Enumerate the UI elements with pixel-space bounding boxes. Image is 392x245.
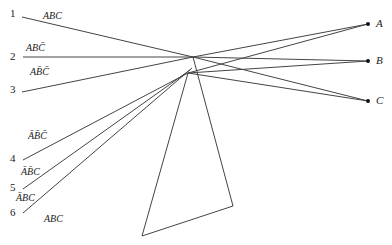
- output-line-lower-a: [188, 24, 368, 73]
- term-label-5: ĀB̄C: [21, 166, 40, 177]
- input-number-1: 1: [10, 7, 16, 19]
- input-line-5: [23, 70, 190, 189]
- input-line-6: [23, 68, 192, 213]
- input-number-2: 2: [10, 50, 16, 62]
- term-label-3: AB̄C̄: [30, 66, 49, 77]
- output-line-upper-a: [193, 24, 368, 57]
- term-label-6: ĀBC: [16, 192, 35, 203]
- quadrilateral: [142, 57, 233, 236]
- term-label-1: ABC: [43, 10, 62, 21]
- output-label-a: A: [376, 17, 383, 29]
- output-line-upper-b: [193, 57, 368, 61]
- diagram-canvas: [0, 0, 392, 245]
- term-label-extra: ABC: [44, 213, 63, 224]
- output-label-b: B: [376, 54, 383, 66]
- input-line-4: [23, 73, 188, 160]
- input-line-1: [22, 17, 193, 57]
- output-line-upper-c: [193, 57, 368, 101]
- input-number-3: 3: [10, 83, 16, 95]
- output-line-lower-c: [188, 73, 368, 101]
- output-dot-c: [366, 99, 370, 103]
- input-number-5: 5: [10, 181, 16, 193]
- input-number-6: 6: [10, 206, 16, 218]
- term-label-2: ABC̄: [26, 42, 45, 53]
- output-label-c: C: [376, 94, 383, 106]
- output-dot-a: [366, 22, 370, 26]
- input-number-4: 4: [10, 152, 16, 164]
- output-dot-b: [366, 59, 370, 63]
- term-label-4: ĀB̄C̄: [28, 130, 47, 141]
